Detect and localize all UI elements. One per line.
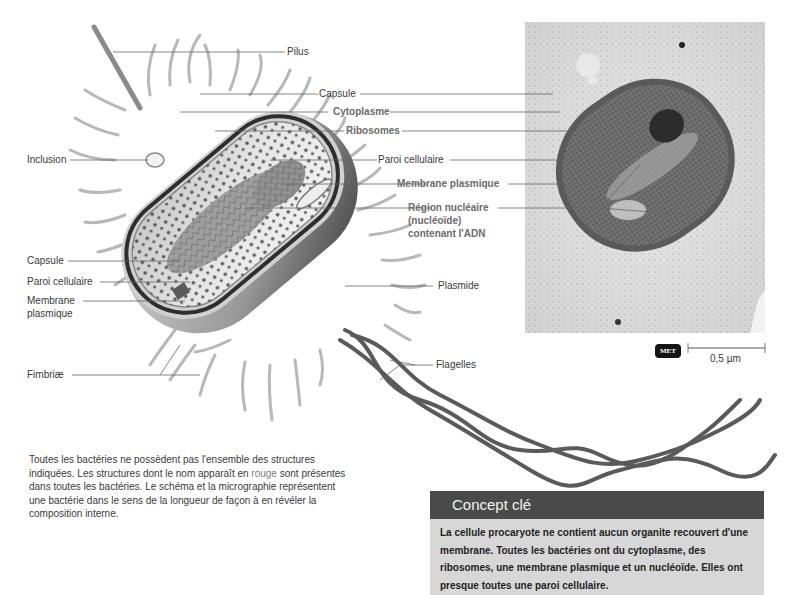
- label-plasmide: Plasmide: [438, 280, 479, 292]
- concept-title: Concept clé: [430, 491, 764, 519]
- label-fimbriae: Fimbriæ: [27, 369, 64, 381]
- label-nucleoide: (nucléoïde): [408, 215, 461, 227]
- label-membrane-left: Membrane: [27, 295, 75, 307]
- label-plasmique-left: plasmique: [27, 308, 73, 320]
- label-capsule-left: Capsule: [27, 255, 64, 267]
- label-flagelles: Flagelles: [436, 359, 476, 371]
- concept-body: La cellule procaryote ne contient aucun …: [430, 519, 764, 594]
- figure-caption: Toutes les bactéries ne possèdent pas l'…: [29, 453, 349, 521]
- label-paroi-right: Paroi cellulaire: [378, 154, 444, 166]
- label-inclusion: Inclusion: [27, 154, 66, 166]
- concept-box: Concept clé La cellule procaryote ne con…: [430, 491, 764, 595]
- micrograph: [525, 22, 765, 333]
- label-region-nucleaire: Région nucléaire: [408, 202, 489, 214]
- met-badge: MET: [655, 344, 681, 358]
- caption-highlight: rouge: [251, 468, 277, 479]
- inclusion: [146, 153, 164, 167]
- pilus: [94, 27, 140, 108]
- label-capsule-right: Capsule: [319, 88, 356, 100]
- label-ribosomes: Ribosomes: [346, 125, 400, 137]
- scale-bar-label: 0,5 µm: [710, 353, 741, 364]
- label-paroi-left: Paroi cellulaire: [27, 276, 93, 288]
- label-cytoplasme: Cytoplasme: [333, 106, 390, 118]
- label-membrane-plasmique: Membrane plasmique: [397, 178, 499, 190]
- label-adn: contenant l'ADN: [408, 228, 485, 240]
- label-pilus: Pilus: [287, 46, 309, 58]
